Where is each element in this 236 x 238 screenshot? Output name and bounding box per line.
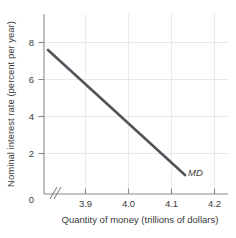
chart-canvas: 8 6 4 2 0 3.9 4.0 4.1 4.2 MD Quantity of… bbox=[0, 0, 236, 238]
y-tick-label-8: 8 bbox=[29, 37, 34, 48]
money-demand-chart: 8 6 4 2 0 3.9 4.0 4.1 4.2 MD Quantity of… bbox=[0, 0, 236, 238]
curve-label-md: MD bbox=[188, 167, 203, 178]
x-tick-label-4-1: 4.1 bbox=[165, 198, 178, 209]
y-tick-label-6: 6 bbox=[29, 74, 34, 85]
y-tick-label-2: 2 bbox=[29, 148, 34, 159]
x-tick-label-4-2: 4.2 bbox=[208, 198, 221, 209]
money-demand-curve bbox=[48, 50, 185, 175]
x-axis-title: Quantity of money (trillions of dollars) bbox=[62, 214, 219, 225]
axis-break-slash-1 bbox=[50, 187, 57, 199]
axis-break-slash-2 bbox=[54, 187, 61, 199]
x-tick-label-4-0: 4.0 bbox=[122, 198, 135, 209]
y-tick-label-0: 0 bbox=[29, 194, 34, 205]
y-axis-title: Nominal interest rate (percent per year) bbox=[5, 21, 16, 187]
y-tick-label-4: 4 bbox=[29, 111, 34, 122]
x-tick-label-3-9: 3.9 bbox=[79, 198, 92, 209]
